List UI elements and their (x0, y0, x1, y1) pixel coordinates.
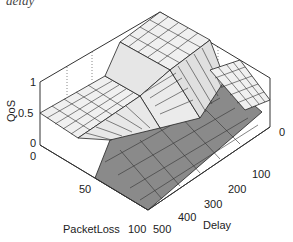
surface-plot: 1 0.5 0 QoS 0 50 100 PacketLoss 0 100 20… (0, 0, 293, 242)
y-tick-500: 500 (153, 223, 171, 235)
z-axis-label: QoS (5, 100, 17, 122)
x-axis-label: PacketLoss (63, 223, 120, 235)
z-axis: 1 0.5 0 QoS (5, 76, 36, 149)
x-tick-0: 0 (30, 150, 36, 162)
y-tick-100: 100 (252, 168, 270, 180)
y-tick-300: 300 (204, 198, 222, 210)
y-tick-0: 0 (279, 126, 285, 138)
x-tick-50: 50 (79, 183, 91, 195)
x-tick-100: 100 (128, 223, 146, 235)
z-tick-1: 1 (30, 76, 36, 88)
y-axis-label: Delay (203, 219, 232, 231)
z-tick-05: 0.5 (18, 107, 33, 119)
z-tick-0: 0 (30, 137, 36, 149)
y-tick-200: 200 (228, 183, 246, 195)
y-tick-400: 400 (178, 211, 196, 223)
